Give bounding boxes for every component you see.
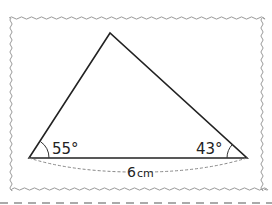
angle-label-right: 43° (196, 140, 223, 158)
base-length-unit: cm (137, 167, 154, 180)
angle-arc-right (227, 144, 232, 158)
base-measure-curve-right (150, 158, 247, 172)
angle-label-left: 55° (52, 140, 79, 158)
wavy-frame (9, 17, 268, 191)
diagram-canvas: 55° 43° 6 cm (0, 0, 272, 205)
angle-arc-left (41, 142, 50, 158)
base-length-number: 6 (127, 164, 136, 180)
base-measure-curve (29, 158, 128, 172)
